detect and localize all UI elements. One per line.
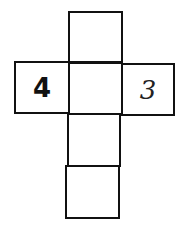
net-cell-below-center bbox=[67, 113, 121, 167]
net-cell-left: 4 bbox=[14, 61, 70, 114]
net-cell-center bbox=[68, 62, 123, 115]
net-cell-right: 3 bbox=[121, 63, 175, 116]
cell-label-right: 3 bbox=[140, 75, 157, 105]
net-cell-top bbox=[68, 11, 123, 63]
cell-label-left: 4 bbox=[33, 73, 51, 103]
net-cell-bottom bbox=[65, 165, 120, 219]
